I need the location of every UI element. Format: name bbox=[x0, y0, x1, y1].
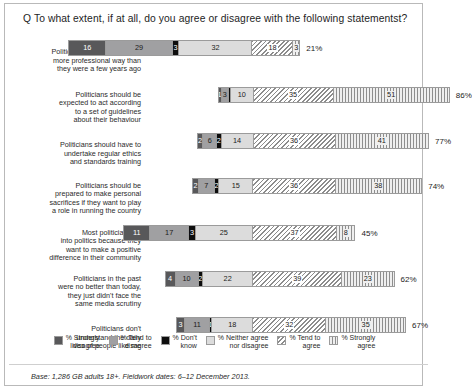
row-label: Politicians should have toundertake regu… bbox=[13, 141, 141, 167]
footer-note: Base: 1,286 GB adults 18+. Fieldwork dat… bbox=[9, 364, 428, 391]
row-total-percent: 77% bbox=[435, 133, 451, 149]
bar-segment-value: 37 bbox=[290, 229, 300, 236]
legend-swatch-icon bbox=[329, 336, 338, 345]
bar-segment-strongly-disagree: 4 bbox=[166, 272, 175, 286]
bar-segment-value: 2 bbox=[217, 137, 221, 144]
legend-item-neither: % Neither agreenor disagree bbox=[206, 334, 269, 351]
legend-label: % Tend todisagree bbox=[121, 334, 152, 351]
stacked-bar: 262143641 bbox=[197, 133, 429, 149]
bar-segment-value: 11 bbox=[193, 321, 201, 328]
legend-swatch-icon bbox=[161, 336, 170, 345]
bar-segment-value: 2 bbox=[198, 275, 202, 282]
stacked-bar: 1117325378 bbox=[123, 225, 355, 241]
row-total-percent: 45% bbox=[362, 225, 378, 241]
bar-segment-strongly-agree: 38 bbox=[335, 179, 422, 193]
bar-segment-tend-to-agree: 32 bbox=[252, 318, 325, 332]
legend-label: % Stronglyagree bbox=[341, 334, 375, 351]
bar-segment-strongly-disagree: 11 bbox=[124, 226, 149, 240]
bar-segment-value: 29 bbox=[135, 44, 143, 51]
bar-segment-strongly-disagree: 16 bbox=[69, 41, 105, 55]
bar-segment-value: 2 bbox=[198, 137, 202, 144]
legend-item-tend-to-disagree: % Tend todisagree bbox=[109, 334, 152, 351]
legend-swatch-icon bbox=[109, 336, 118, 345]
bar-segment-tend-to-agree: 35 bbox=[253, 88, 333, 102]
stacked-bar: 13103551 bbox=[218, 87, 450, 103]
bar-segment-value: 15 bbox=[232, 182, 240, 189]
bar-segment-value: 3 bbox=[223, 91, 227, 98]
bar-segment-neither: 10 bbox=[230, 88, 253, 102]
bar-segment-dont-know: 3 bbox=[188, 226, 195, 240]
bar-segment-value: 32 bbox=[284, 321, 294, 328]
bar-segment-tend-to-agree: 37 bbox=[252, 226, 336, 240]
page-title: Q To what extent, if at all, do you agre… bbox=[23, 13, 415, 25]
legend-item-strongly-agree: % Stronglyagree bbox=[329, 334, 375, 351]
bar-segment-tend-to-agree: 39 bbox=[252, 272, 341, 286]
bar-segment-value: 11 bbox=[133, 229, 141, 236]
stacked-bar: 3111183235 bbox=[176, 317, 406, 333]
legend-label: % Don'tknow bbox=[173, 334, 197, 351]
bar-segment-value: 18 bbox=[228, 321, 236, 328]
bar-segment-value: 32 bbox=[211, 44, 219, 51]
row-total-percent: 74% bbox=[428, 178, 444, 194]
stacked-bar: 272153638 bbox=[192, 178, 422, 194]
bar-segment-value: 3 bbox=[178, 321, 182, 328]
stacked-bar: 4102223923 bbox=[165, 271, 395, 287]
legend-item-strongly-disagree: % Stronglydisagree bbox=[54, 334, 100, 351]
bar-segment-dont-know: 3 bbox=[172, 41, 179, 55]
bar-segment-strongly-disagree: 3 bbox=[177, 318, 184, 332]
row-label: Politicians should beprepared to make pe… bbox=[13, 182, 141, 216]
bar-segment-strongly-agree: 23 bbox=[341, 272, 393, 286]
bar-segment-tend-to-disagree: 10 bbox=[175, 272, 198, 286]
legend-label: % Stronglydisagree bbox=[66, 334, 100, 351]
legend-swatch-icon bbox=[54, 336, 63, 345]
stacked-bar: 1629332183 bbox=[68, 40, 300, 56]
bar-segment-value: 4 bbox=[168, 275, 172, 282]
legend-item-tend-to-agree: % Tend toagree bbox=[277, 334, 320, 351]
bar-segment-value: 18 bbox=[267, 44, 277, 51]
bar-segment-strongly-agree: 35 bbox=[325, 318, 405, 332]
bar-segment-value: 3 bbox=[293, 44, 299, 51]
bar-segment-value: 41 bbox=[377, 137, 387, 144]
footer-text: Base: 1,286 GB adults 18+. Fieldwork dat… bbox=[31, 372, 250, 381]
bar-segment-value: 23 bbox=[363, 275, 373, 282]
bar-segment-value: 2 bbox=[214, 182, 218, 189]
row-label: Politicians in the pastwere no better th… bbox=[13, 275, 141, 309]
bar-segment-value: 51 bbox=[386, 91, 396, 98]
bar-segment-value: 10 bbox=[238, 91, 246, 98]
bar-segment-value: 35 bbox=[288, 91, 298, 98]
bar-segment-value: 39 bbox=[292, 275, 302, 282]
row-total-percent: 86% bbox=[456, 87, 472, 103]
bar-segment-strongly-agree: 3 bbox=[292, 41, 299, 55]
bar-segment-value: 36 bbox=[289, 182, 299, 189]
bar-segment-value: 22 bbox=[224, 275, 232, 282]
row-total-percent: 21% bbox=[306, 40, 322, 56]
bar-segment-strongly-agree: 51 bbox=[333, 88, 449, 102]
bar-segment-tend-to-disagree: 3 bbox=[221, 88, 228, 102]
bar-segment-strongly-agree: 41 bbox=[335, 134, 428, 148]
bar-segment-value: 38 bbox=[373, 182, 383, 189]
chart-legend: % Stronglydisagree% Tend todisagree% Don… bbox=[5, 334, 424, 351]
row-label: Most politicians gointo politics because… bbox=[13, 229, 141, 263]
bar-segment-tend-to-agree: 36 bbox=[253, 134, 335, 148]
bar-segment-value: 10 bbox=[183, 275, 191, 282]
bar-segment-value: 8 bbox=[343, 229, 349, 236]
bar-segment-value: 25 bbox=[220, 229, 228, 236]
legend-swatch-icon bbox=[206, 336, 215, 345]
bar-segment-value: 17 bbox=[165, 229, 173, 236]
legend-label: % Neither agreenor disagree bbox=[218, 334, 269, 351]
bar-segment-value: 16 bbox=[83, 44, 91, 51]
bar-segment-tend-to-disagree: 6 bbox=[202, 134, 216, 148]
row-total-percent: 62% bbox=[401, 271, 417, 287]
row-label: Politicians should beexpected to act acc… bbox=[13, 91, 141, 125]
bar-segment-value: 1 bbox=[209, 321, 211, 328]
bar-segment-value: 3 bbox=[174, 44, 178, 51]
bar-segment-value: 14 bbox=[233, 137, 241, 144]
bar-segment-tend-to-disagree: 29 bbox=[105, 41, 171, 55]
legend-item-dont-know: % Don'tknow bbox=[161, 334, 197, 351]
diverging-stacked-bar-chart: Politicians are behaving in amore profes… bbox=[5, 30, 424, 330]
bar-segment-tend-to-disagree: 11 bbox=[184, 318, 209, 332]
bar-segment-value: 6 bbox=[208, 137, 212, 144]
bar-segment-tend-to-agree: 18 bbox=[251, 41, 292, 55]
chart-card: Q To what extent, if at all, do you agre… bbox=[4, 3, 423, 386]
bar-segment-value: 7 bbox=[204, 182, 208, 189]
